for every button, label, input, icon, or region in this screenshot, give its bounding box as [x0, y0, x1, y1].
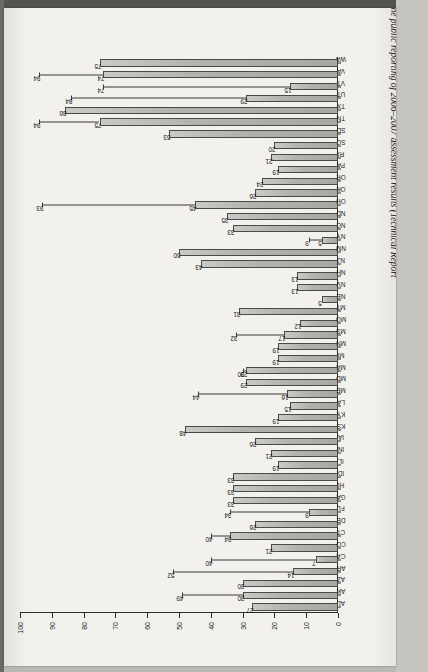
bar-column[interactable]: 15	[20, 402, 338, 409]
bar[interactable]	[246, 379, 338, 386]
category-label: MO	[336, 316, 346, 323]
bar-column[interactable]: 75	[20, 59, 338, 66]
bar[interactable]	[243, 580, 338, 587]
bar-column[interactable]: 24	[20, 178, 338, 185]
bar[interactable]	[278, 166, 338, 173]
bar-value-label: 53	[164, 134, 171, 141]
bar[interactable]	[284, 331, 338, 338]
bar[interactable]	[100, 59, 339, 66]
bar-column[interactable]: 31	[20, 308, 338, 315]
bar[interactable]	[278, 355, 338, 362]
bar[interactable]	[297, 272, 338, 279]
bar-column[interactable]: 934	[20, 509, 338, 516]
bar-column[interactable]: 50	[20, 249, 338, 256]
bar[interactable]	[255, 521, 338, 528]
bar[interactable]	[278, 343, 338, 350]
bar-column[interactable]: 19	[20, 355, 338, 362]
bar-column[interactable]: 13	[20, 284, 338, 291]
bar-column[interactable]: 43	[20, 260, 338, 267]
bar-column[interactable]: 7494	[20, 71, 338, 78]
bar-column[interactable]: 33	[20, 225, 338, 232]
bar-column[interactable]: 27	[20, 603, 338, 610]
category-label: TX	[337, 103, 345, 110]
bar[interactable]	[103, 71, 338, 78]
bar[interactable]	[271, 544, 338, 551]
bar[interactable]	[252, 603, 338, 610]
bar-column[interactable]: 4593	[20, 201, 338, 208]
bar-column[interactable]: 33	[20, 497, 338, 504]
bar-column[interactable]: 30	[20, 580, 338, 587]
bar-column[interactable]: 19	[20, 343, 338, 350]
bar-column[interactable]: 1574	[20, 83, 338, 90]
bar-column[interactable]: 3049	[20, 592, 338, 599]
bar-column[interactable]: 21	[20, 154, 338, 161]
bar-column[interactable]: 59	[20, 237, 338, 244]
bar[interactable]	[290, 83, 338, 90]
bar-column[interactable]: 2930	[20, 367, 338, 374]
bar[interactable]	[243, 592, 338, 599]
bar-column[interactable]: 53	[20, 130, 338, 137]
bar-column[interactable]: 1452	[20, 568, 338, 575]
bar[interactable]	[262, 178, 338, 185]
bar[interactable]	[230, 532, 338, 539]
bar[interactable]	[309, 509, 338, 516]
bar[interactable]	[201, 260, 338, 267]
bar-column[interactable]: 1644	[20, 391, 338, 398]
bar-column[interactable]: 7594	[20, 118, 338, 125]
bar[interactable]	[239, 308, 338, 315]
bar[interactable]	[233, 485, 338, 492]
bar-column[interactable]: 35	[20, 213, 338, 220]
bar-column[interactable]: 13	[20, 272, 338, 279]
category-label: MA	[336, 364, 346, 371]
bar-column[interactable]: 740	[20, 556, 338, 563]
bar[interactable]	[316, 556, 338, 563]
bar-column[interactable]: 26	[20, 521, 338, 528]
bar[interactable]	[233, 497, 338, 504]
bar[interactable]	[274, 142, 338, 149]
bar-column[interactable]: 2984	[20, 95, 338, 102]
bar[interactable]	[290, 402, 338, 409]
bar-column[interactable]: 26	[20, 438, 338, 445]
bar-column[interactable]: 86	[20, 107, 338, 114]
bar-column[interactable]: 33	[20, 485, 338, 492]
bar-column[interactable]: 20	[20, 142, 338, 149]
category-tick	[338, 98, 341, 99]
bar[interactable]	[300, 320, 338, 327]
bar[interactable]	[179, 249, 338, 256]
bar[interactable]	[287, 391, 338, 398]
bar[interactable]	[297, 284, 338, 291]
bar[interactable]	[278, 414, 338, 421]
bar-column[interactable]: 19	[20, 414, 338, 421]
bar-column[interactable]: 1732	[20, 331, 338, 338]
bar-column[interactable]: 26	[20, 189, 338, 196]
bar-column[interactable]: 48	[20, 426, 338, 433]
bar-column[interactable]: 29	[20, 379, 338, 386]
bar[interactable]	[100, 118, 339, 125]
bar[interactable]	[278, 461, 338, 468]
y-axis-tick-label: 80	[80, 622, 87, 630]
bar[interactable]	[233, 225, 338, 232]
bar-column[interactable]: 33	[20, 473, 338, 480]
bar[interactable]	[246, 95, 338, 102]
bar[interactable]	[227, 213, 338, 220]
bar[interactable]	[233, 473, 338, 480]
bar[interactable]	[271, 154, 338, 161]
gap-value-label: 74	[97, 87, 104, 94]
bar-column[interactable]: 3440	[20, 532, 338, 539]
bar-value-label: 48	[180, 430, 187, 437]
bar-column[interactable]: 19	[20, 166, 338, 173]
bar[interactable]	[271, 450, 338, 457]
bar-column[interactable]: 5	[20, 296, 338, 303]
bar[interactable]	[293, 568, 338, 575]
bar[interactable]	[255, 438, 338, 445]
bar-column[interactable]: 12	[20, 320, 338, 327]
bar[interactable]	[185, 426, 338, 433]
bar[interactable]	[255, 189, 338, 196]
bar-column[interactable]: 21	[20, 544, 338, 551]
bar[interactable]	[246, 367, 338, 374]
bar-column[interactable]: 19	[20, 461, 338, 468]
bar[interactable]	[195, 201, 338, 208]
bar[interactable]	[65, 107, 338, 114]
bar-column[interactable]: 21	[20, 450, 338, 457]
bar[interactable]	[169, 130, 338, 137]
